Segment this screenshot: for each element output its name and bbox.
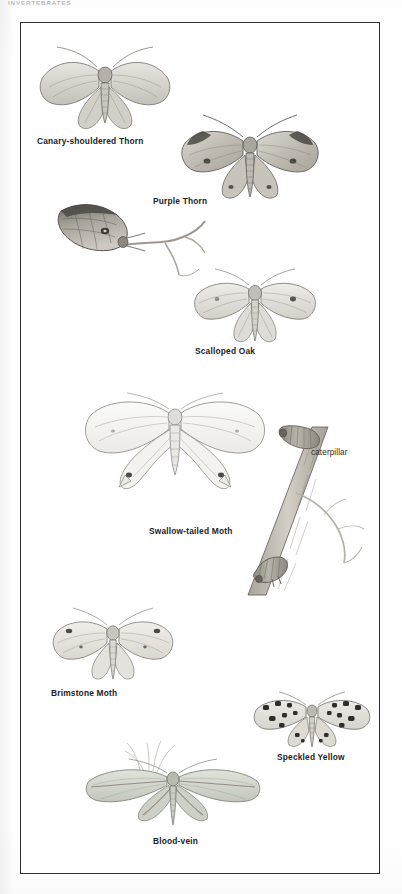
scanned-page: INVERTEBRATES: [0, 0, 402, 894]
running-head: INVERTEBRATES: [8, 0, 72, 6]
page-gutter-shadow: [0, 0, 14, 894]
figure-speckled-yellow: [249, 689, 375, 753]
caption-scalloped-oak: Scalloped Oak: [195, 346, 255, 356]
figure-canary-shouldered-thorn: [35, 41, 175, 136]
figure-thorn-resting-on-twig: [53, 193, 208, 291]
caption-swallow-tailed-moth: Swallow-tailed Moth: [149, 526, 232, 536]
caption-caterpillar: caterpillar: [311, 448, 348, 457]
illustration-plate-frame: Canary-shouldered Thorn: [20, 22, 380, 874]
figure-scalloped-oak: [189, 263, 321, 351]
caption-blood-vein: Blood-vein: [153, 836, 198, 846]
figure-blood-vein: [83, 741, 261, 839]
caption-canary-shouldered-thorn: Canary-shouldered Thorn: [37, 136, 144, 146]
caption-brimstone-moth: Brimstone Moth: [51, 688, 117, 698]
figure-brimstone-moth: [47, 603, 179, 687]
figure-purple-thorn: [177, 113, 322, 205]
caption-speckled-yellow: Speckled Yellow: [277, 752, 345, 762]
